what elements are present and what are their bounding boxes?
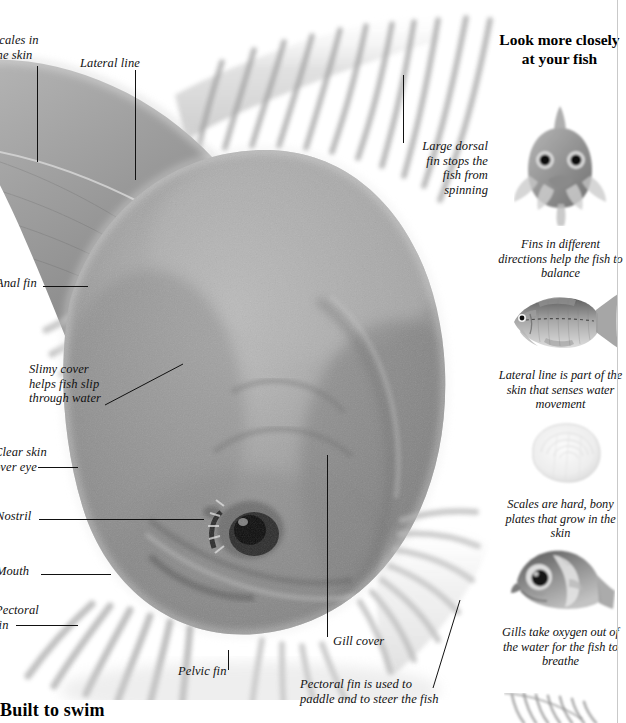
leader-pelvic-fin	[228, 650, 229, 670]
sidebar-divider-rule	[617, 0, 618, 723]
callout-clear-skin-over-eye: Clear skin over eye	[0, 445, 47, 474]
callout-pectoral-fin-steer: Pectoral fin is used to paddle and to st…	[300, 677, 439, 706]
sidebar-title: Look more closely at your fish	[497, 30, 622, 68]
callout-gill-cover: Gill cover	[333, 634, 384, 649]
callout-nostril: Nostril	[0, 509, 31, 524]
section-heading-built-to-swim: Built to swim	[0, 700, 105, 721]
leader-lateral-line	[135, 70, 136, 180]
sidebar-caption-gills: Gills take oxygen out of the water for t…	[497, 625, 624, 669]
leader-dorsal-fin	[403, 75, 404, 143]
sidebar-caption-fins-balance: Fins in different directions help the fi…	[497, 237, 624, 281]
leader-scales	[37, 66, 38, 162]
callout-mouth: Mouth	[0, 564, 29, 579]
callout-pectoral-fin-left: Pectoral fin	[0, 603, 39, 632]
callout-large-dorsal-fin: Large dorsal fin stops the fish from spi…	[410, 139, 488, 197]
leader-slimy-cover	[105, 362, 185, 408]
callout-anal-fin: Anal fin	[0, 276, 37, 291]
fish-photograph	[0, 0, 500, 700]
sidebar-caption-lateral-line: Lateral line is part of the skin that se…	[497, 368, 624, 412]
fish-head-gill-thumbnail	[497, 545, 626, 613]
callout-slimy-cover: Slimy cover helps fish slip through wate…	[29, 362, 101, 406]
callout-pelvic-fin: Pelvic fin	[178, 664, 227, 679]
sidebar: Look more closely at your fish	[497, 0, 626, 723]
fish-front-view-thumbnail	[497, 98, 626, 226]
sidebar-caption-scales: Scales are hard, bony plates that grow i…	[497, 497, 624, 541]
leader-gill-cover	[327, 455, 328, 637]
page-root: Scales in the skin Lateral line Large do…	[0, 0, 626, 723]
gill-filaments-thumbnail	[497, 693, 626, 723]
leader-mouth	[41, 574, 111, 575]
callout-scales-in-the-skin: Scales in the skin	[0, 33, 39, 62]
callout-lateral-line: Lateral line	[80, 56, 140, 71]
fish-side-view-thumbnail	[497, 290, 626, 352]
leader-anal-fin	[43, 286, 88, 287]
leader-nostril	[39, 519, 204, 520]
single-scale-thumbnail	[497, 420, 626, 486]
